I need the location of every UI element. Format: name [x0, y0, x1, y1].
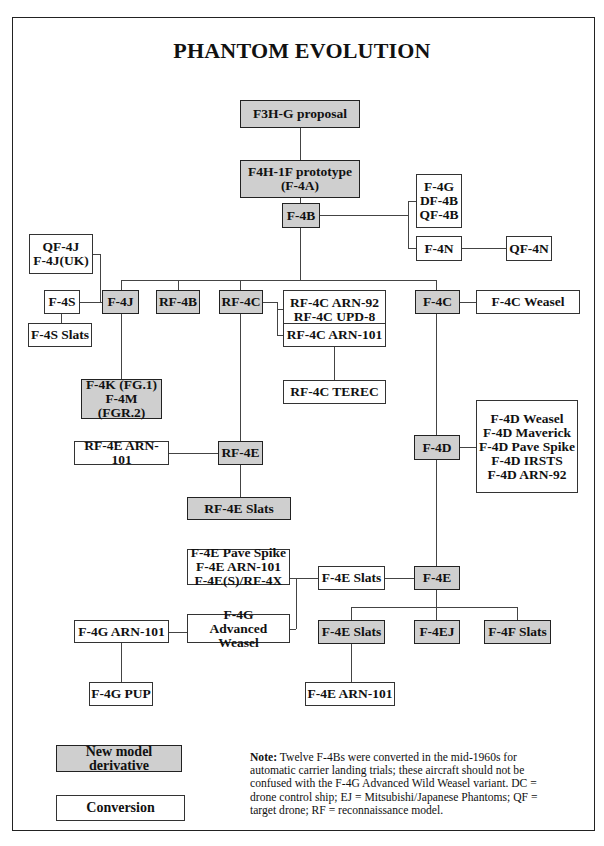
node-rf4c-arn101: RF-4C ARN-101 [283, 323, 386, 347]
connector [351, 643, 352, 682]
connector [436, 314, 437, 435]
node-f4e-variants: F-4E Pave Spike F-4E ARN-101 F-4E(S)/RF-… [187, 549, 290, 585]
node-f4h1f-prototype: F4H-1F prototype (F-4A) [240, 160, 360, 198]
node-f4c-weasel: F-4C Weasel [476, 290, 580, 314]
connector [408, 248, 416, 249]
connector [240, 314, 241, 441]
node-rf4c-terec: RF-4C TEREC [283, 380, 386, 404]
connector [240, 465, 241, 497]
connector [436, 280, 437, 290]
diagram-title: PHANTOM EVOLUTION [0, 38, 604, 64]
node-f4b: F-4B [282, 203, 320, 228]
connector [300, 228, 301, 280]
connector [436, 590, 437, 620]
node-f4d-variants: F-4D Weasel F-4D Maverick F-4D Pave Spik… [476, 400, 578, 493]
connector [290, 578, 318, 579]
connector [80, 302, 102, 303]
legend-new-model-derivative: New model derivative [56, 745, 182, 772]
node-qf4j-f4j-uk: QF-4J F-4J(UK) [29, 234, 93, 274]
node-f4g-arn101: F-4G ARN-101 [74, 620, 169, 643]
node-f4e-slats-conversion: F-4E Slats [318, 566, 385, 590]
node-f4d: F-4D [414, 435, 460, 460]
node-qf4n: QF-4N [506, 236, 552, 261]
connector [100, 254, 101, 302]
node-f4e-slats-new: F-4E Slats [318, 620, 385, 644]
node-f3hg-proposal: F3H-G proposal [240, 100, 360, 128]
note-label: Note: [250, 751, 277, 764]
node-f4k-f4m: F-4K (FG.1) F-4M (FGR.2) [81, 379, 162, 419]
legend-conversion: Conversion [56, 795, 185, 821]
connector [277, 302, 278, 335]
connector [408, 201, 416, 202]
connector [263, 302, 277, 303]
connector [517, 607, 518, 620]
node-f4j: F-4J [102, 290, 139, 314]
node-rf4e-slats: RF-4E Slats [187, 497, 291, 520]
node-rf4c: RF-4C [219, 290, 263, 314]
node-f4e: F-4E [414, 566, 460, 590]
connector [290, 629, 296, 630]
connector [121, 280, 437, 281]
node-rf4e: RF-4E [218, 441, 263, 465]
node-f4c: F-4C [415, 290, 460, 314]
connector [296, 578, 297, 629]
connector [240, 280, 241, 290]
connector [300, 128, 301, 160]
connector [351, 607, 517, 608]
node-f4s-slats: F-4S Slats [28, 323, 92, 347]
node-f4ej: F-4EJ [414, 620, 460, 644]
connector [334, 347, 335, 380]
connector [169, 632, 187, 633]
connector [121, 314, 122, 379]
node-f4e-arn101: F-4E ARN-101 [305, 682, 395, 706]
connector [61, 314, 62, 323]
connector [320, 215, 408, 216]
connector [121, 643, 122, 682]
connector [462, 248, 506, 249]
connector [351, 607, 352, 620]
node-f4g-advanced-weasel: F-4G Advanced Weasel [187, 614, 290, 643]
node-f4f-slats: F-4F Slats [484, 620, 551, 644]
connector [178, 280, 179, 290]
connector [460, 447, 476, 448]
connector [385, 578, 414, 579]
node-f4g-pup: F-4G PUP [89, 682, 153, 706]
node-f4s: F-4S [44, 290, 80, 314]
node-rf4e-arn101: RF-4E ARN-101 [74, 441, 169, 465]
node-f4n: F-4N [416, 236, 462, 261]
note-text: Twelve F-4Bs were converted in the mid-1… [250, 751, 537, 817]
node-f4g-df4b-qf4b: F-4G DF-4B QF-4B [416, 174, 462, 228]
footnote: Note: Twelve F-4Bs were converted in the… [250, 751, 550, 817]
node-rf4b: RF-4B [156, 290, 200, 314]
connector [408, 201, 409, 249]
connector [436, 460, 437, 566]
connector [169, 453, 218, 454]
connector [460, 302, 476, 303]
connector [121, 280, 122, 290]
connector [93, 254, 100, 255]
